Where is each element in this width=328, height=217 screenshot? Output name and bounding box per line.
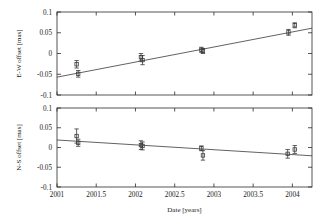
ew-plot-frame [57,12,312,95]
panel-ew-offset: -0.1-0.0500.050.1 [37,9,312,100]
xticklabel-3: 2002.5 [165,191,185,199]
ns-yticklabel-2: 0 [48,144,52,152]
panel-ns-offset: -0.1-0.0500.050.1 [37,105,312,192]
xticklabel-1: 2001.5 [86,191,106,199]
figure-labels: 20012001.520022002.520032003.52004Date [… [15,29,300,214]
ns-datapoint-4 [199,146,203,151]
x-axis-title: Date [years] [167,206,201,214]
ew-yticklabel-0: -0.1 [41,92,53,100]
y-axis-title-ns: N-S offset [mas] [15,124,23,171]
ew-yticklabel-3: 0.05 [39,29,52,37]
ew-yticklabel-4: 0.1 [43,9,52,17]
y-axis-title-ew: E-W offset [mas] [15,29,23,77]
ew-yticklabel-2: 0 [48,50,52,58]
ns-yticklabel-4: 0.1 [43,105,52,113]
ew-datapoint-7 [293,23,297,28]
ns-yticklabel-1: -0.05 [37,164,52,172]
xticklabel-4: 2003 [207,191,222,199]
ew-fit-line [57,28,312,77]
ew-datapoint-6 [286,29,290,35]
ns-yticklabel-3: 0.05 [39,124,52,132]
plot-svg: -0.1-0.0500.050.1 -0.1-0.0500.050.1 2001… [0,0,328,217]
ew-datapoint-0 [74,61,78,68]
ns-datapoint-6 [285,149,289,158]
xticklabel-5: 2003.5 [243,191,263,199]
ns-datapoint-7 [293,146,297,154]
ew-datapoint-5 [201,49,205,54]
figure-container: -0.1-0.0500.050.1 -0.1-0.0500.050.1 2001… [0,0,328,217]
ns-datapoint-5 [201,151,205,160]
xticklabel-2: 2002 [128,191,143,199]
ew-yticklabel-1: -0.05 [37,71,52,79]
ns-fit-line [57,140,312,156]
xticklabel-6: 2004 [285,191,300,199]
ew-datapoint-1 [76,71,80,78]
xticklabel-0: 2001 [50,191,65,199]
